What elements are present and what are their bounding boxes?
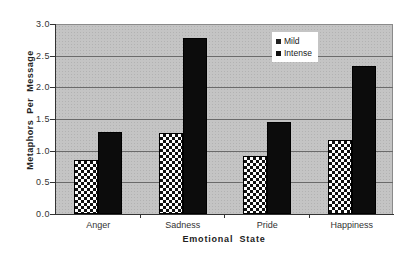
y-tick-label: 3.0 (36, 19, 50, 29)
y-tick-mark (50, 182, 55, 183)
x-tick-label: Anger (86, 220, 110, 230)
x-tick-mark (224, 214, 225, 218)
y-tick-label: 0.5 (36, 177, 50, 187)
y-tick-label: 2.0 (36, 82, 50, 92)
legend-label: Intense (284, 48, 312, 58)
bar-sadness-intense (183, 38, 207, 214)
y-tick-mark (50, 87, 55, 88)
x-tick-label: Pride (257, 220, 278, 230)
legend-item-mild: Mild (276, 35, 314, 47)
legend: Mild Intense (272, 32, 318, 62)
y-tick-mark (50, 24, 55, 25)
x-tick-mark (140, 214, 141, 218)
y-tick-label: 0.0 (36, 209, 50, 219)
legend-label: Mild (284, 36, 300, 46)
y-tick-mark (50, 214, 55, 215)
bar-chart: 0.00.51.01.52.02.53.0 AngerSadnessPrideH… (0, 0, 414, 255)
gridline (55, 56, 393, 57)
y-tick-label: 1.5 (36, 114, 50, 124)
y-tick-mark (50, 151, 55, 152)
legend-swatch-mild-icon (276, 39, 281, 44)
bar-sadness-mild (159, 133, 183, 214)
y-tick-mark (50, 56, 55, 57)
bar-pride-intense (267, 122, 291, 214)
bar-happiness-mild (328, 140, 352, 214)
bar-happiness-intense (352, 66, 376, 214)
legend-swatch-intense-icon (276, 51, 281, 56)
bar-pride-mild (243, 156, 267, 214)
gridline (55, 119, 393, 120)
y-axis-line (55, 24, 56, 215)
y-tick-label: 2.5 (36, 51, 50, 61)
bar-anger-mild (74, 160, 98, 214)
x-tick-label: Happiness (330, 220, 373, 230)
y-tick-label: 1.0 (36, 146, 50, 156)
y-tick-mark (50, 119, 55, 120)
bar-anger-intense (98, 132, 122, 214)
x-axis-title: Emotional State (182, 234, 265, 244)
legend-item-intense: Intense (276, 47, 314, 59)
gridline (55, 87, 393, 88)
x-tick-label: Sadness (165, 220, 200, 230)
y-axis-title: Metaphors Per Message (25, 50, 35, 170)
x-tick-mark (309, 214, 310, 218)
